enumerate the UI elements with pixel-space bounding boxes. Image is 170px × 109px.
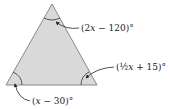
triangle-diagram: (2x − 120)° (½x + 15)° (x − 30)°: [0, 0, 170, 109]
bottom-right-angle-label: (½x + 15)°: [116, 62, 166, 72]
bottom-left-angle-label: (x − 30)°: [32, 96, 73, 106]
bottom-left-angle-pointer: [15, 84, 30, 101]
triangle: [6, 4, 97, 85]
top-angle-label: (2x − 120)°: [81, 23, 134, 33]
